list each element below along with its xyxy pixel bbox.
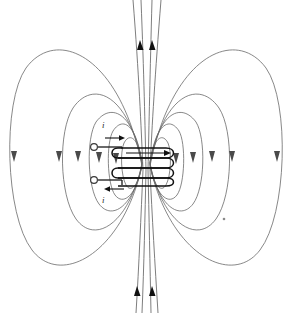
arrow-down-icon: [209, 151, 215, 162]
axis-field-lines: [133, 0, 161, 313]
lead-wires: [91, 144, 122, 185]
arrow-left-icon: [104, 186, 110, 191]
field-line-near-right: [150, 138, 170, 189]
arrow-down-icon: [190, 152, 196, 163]
magnetic-field-diagram: i i: [0, 0, 292, 313]
current-label-bottom: i: [102, 195, 105, 205]
arrow-down-icon: [96, 152, 102, 163]
field-line-inner-right-2: [150, 124, 184, 199]
arrow-up-icon: [149, 286, 156, 296]
arrow-down-icon: [75, 151, 81, 162]
field-line-mid-left: [62, 94, 142, 230]
arrow-right-icon: [119, 135, 125, 140]
side-arrowheads-right: [173, 151, 280, 164]
arrow-down-icon: [11, 151, 17, 162]
coil-turn-return: [112, 168, 118, 178]
arrow-down-icon: [56, 151, 62, 162]
terminal-top[interactable]: [91, 144, 98, 151]
current-label-top: i: [102, 120, 105, 130]
field-line-near-left: [122, 138, 142, 189]
arrow-down-icon: [274, 151, 280, 162]
terminal-bottom[interactable]: [91, 177, 98, 184]
axis-arrowheads-top: [137, 40, 156, 50]
field-line-inner-left-2: [108, 124, 142, 199]
arrow-up-icon: [149, 40, 156, 50]
side-arrowheads-left: [11, 151, 119, 164]
figure-root: i i: [0, 0, 292, 313]
field-line-mid-right: [150, 94, 230, 230]
arrow-up-icon: [134, 286, 141, 296]
axis-arrowheads-bottom: [134, 286, 156, 296]
stray-dot-mark: [223, 218, 226, 221]
